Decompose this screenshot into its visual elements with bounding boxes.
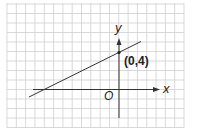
point-label: (0,4)	[124, 54, 149, 68]
y-axis-label: y	[115, 20, 122, 35]
coordinate-plane-figure: y x O (0,4)	[0, 0, 197, 140]
x-axis-label: x	[163, 81, 170, 96]
coordinate-plane-svg	[0, 0, 197, 140]
x-axis	[33, 87, 160, 92]
y-intercept-point	[117, 51, 120, 54]
y-axis-arrow-icon	[117, 38, 122, 45]
y-axis	[117, 38, 122, 118]
origin-label: O	[104, 89, 113, 103]
x-axis-arrow-icon	[153, 87, 160, 92]
grid	[7, 3, 184, 128]
graph-line	[29, 42, 141, 98]
